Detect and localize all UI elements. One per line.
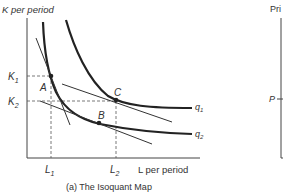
l2-label: L2: [110, 164, 120, 177]
q1-label: q1: [195, 102, 203, 113]
x-axis-label-text: L per period: [138, 164, 188, 175]
point-b: [97, 121, 102, 126]
q2-label-sub: 2: [199, 134, 204, 140]
y-axis-label: K per period: [2, 4, 54, 15]
k2-label-sub: 2: [14, 102, 19, 109]
isoquant-diagram: K per period K1 K2 L1 L2 L per period A …: [0, 0, 283, 193]
point-a-label: A: [39, 82, 47, 93]
point-a: [49, 74, 54, 79]
k1-label: K1: [8, 71, 19, 84]
point-b-label: B: [98, 110, 105, 121]
x-axis-label: L per period: [138, 164, 188, 175]
point-c-label: C: [114, 87, 122, 98]
point-c: [114, 98, 119, 103]
price-tick-label: P: [269, 94, 275, 104]
k1-label-sub: 1: [15, 77, 19, 84]
q2-label: q2: [195, 129, 204, 140]
k2-label: K2: [8, 96, 19, 109]
l1-label-sub: 1: [51, 170, 55, 177]
q1-label-sub: 1: [200, 107, 203, 113]
right-y-axis-label: Pri: [270, 4, 281, 14]
y-axis-label-text: K per period: [2, 4, 54, 15]
l2-label-sub: 2: [115, 170, 120, 177]
caption: (a) The Isoquant Map: [66, 182, 152, 192]
tangent-line-b: [40, 101, 152, 144]
isoquant-q1: [66, 20, 192, 108]
isoquant-q2: [43, 22, 192, 134]
l1-label: L1: [45, 164, 55, 177]
